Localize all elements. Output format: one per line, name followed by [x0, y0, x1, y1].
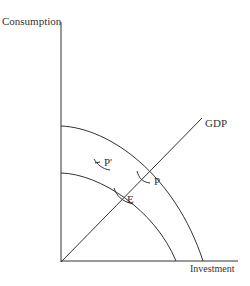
x-axis-label: Investment — [190, 263, 235, 274]
p-prime-label: P' — [104, 156, 112, 168]
diagram-canvas: Consumption Investment GDP P' P E — [0, 0, 250, 286]
e-label: E — [127, 193, 134, 205]
gdp-line — [61, 118, 202, 262]
y-axis-label: Consumption — [2, 15, 62, 27]
p-label: P — [154, 175, 160, 187]
gdp-label: GDP — [205, 117, 227, 129]
